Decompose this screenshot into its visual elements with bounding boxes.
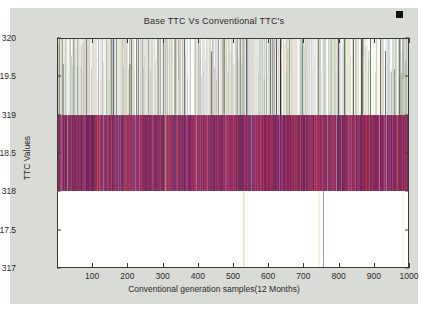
x-tick-label: 300 [156, 271, 170, 281]
x-tick-label: 900 [367, 271, 381, 281]
bar-canvas [58, 39, 408, 267]
x-tick-mark [163, 263, 164, 268]
x-tick-mark [409, 38, 410, 43]
x-tick-mark [127, 263, 128, 268]
bar-series [58, 39, 408, 267]
y-tick-mark [405, 114, 409, 115]
y-tick-mark [57, 76, 61, 77]
x-tick-mark [339, 263, 340, 268]
x-tick-mark [303, 38, 304, 43]
x-tick-label: 100 [85, 271, 99, 281]
y-tick-label: 318.5 [0, 148, 16, 158]
chart-title: Base TTC Vs Conventional TTC's [10, 16, 418, 26]
y-tick-label: 318 [0, 186, 16, 196]
x-tick-mark [163, 38, 164, 43]
y-axis-label: TTC Values [22, 103, 32, 213]
y-tick-label: 319.5 [0, 71, 16, 81]
y-tick-label: 317.5 [0, 225, 16, 235]
y-tick-mark [57, 268, 61, 269]
x-tick-label: 500 [226, 271, 240, 281]
y-tick-label: 319 [0, 110, 16, 120]
x-tick-label: 200 [120, 271, 134, 281]
x-tick-label: 700 [296, 271, 310, 281]
x-tick-mark [339, 38, 340, 43]
x-tick-label: 1000 [400, 271, 419, 281]
x-tick-mark [198, 263, 199, 268]
plot-area [57, 38, 409, 268]
x-tick-mark [92, 38, 93, 43]
x-tick-label: 800 [332, 271, 346, 281]
x-tick-mark [92, 263, 93, 268]
y-tick-mark [57, 191, 61, 192]
y-tick-mark [405, 76, 409, 77]
y-tick-label: 320 [0, 33, 16, 43]
x-tick-mark [303, 263, 304, 268]
x-tick-mark [409, 263, 410, 268]
y-tick-mark [57, 38, 61, 39]
figure-panel: Base TTC Vs Conventional TTC's TTC Value… [10, 8, 418, 304]
y-tick-mark [57, 114, 61, 115]
y-tick-mark [405, 153, 409, 154]
x-tick-mark [374, 38, 375, 43]
y-tick-mark [57, 153, 61, 154]
x-tick-mark [268, 38, 269, 43]
x-axis-label: Conventional generation samples(12 Month… [10, 284, 418, 294]
y-tick-mark [405, 191, 409, 192]
y-tick-label: 317 [0, 263, 16, 273]
x-tick-mark [127, 38, 128, 43]
x-tick-label: 400 [191, 271, 205, 281]
x-tick-mark [198, 38, 199, 43]
x-tick-label: 600 [261, 271, 275, 281]
y-tick-mark [57, 229, 61, 230]
y-tick-mark [405, 229, 409, 230]
x-tick-mark [233, 263, 234, 268]
x-tick-mark [233, 38, 234, 43]
x-tick-mark [268, 263, 269, 268]
x-tick-mark [374, 263, 375, 268]
